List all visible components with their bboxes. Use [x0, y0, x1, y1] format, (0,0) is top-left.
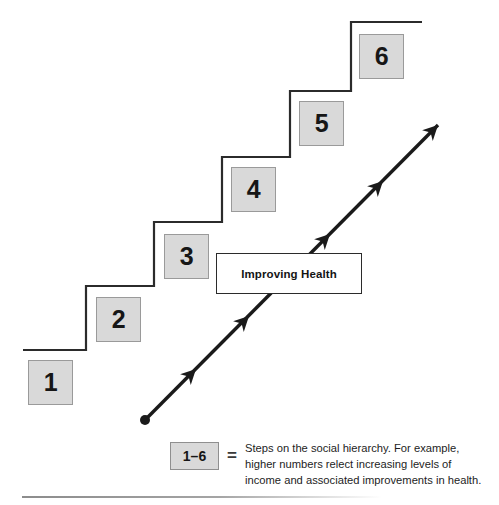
step-box-5: 5	[299, 101, 344, 146]
step-box-4-label: 4	[247, 177, 260, 202]
step-box-3: 3	[164, 234, 209, 279]
staircase-diagram-figure: 1 2 3 4 5 6 Improving Health 1–6 = Steps…	[0, 0, 499, 505]
improving-health-box: Improving Health	[216, 253, 362, 294]
equals-icon: =	[219, 446, 245, 466]
step-box-1: 1	[28, 360, 73, 405]
footer-divider	[22, 496, 382, 498]
step-box-6: 6	[359, 34, 404, 79]
step-box-4: 4	[231, 167, 276, 212]
step-box-6-label: 6	[375, 44, 388, 69]
step-box-3-label: 3	[180, 244, 193, 269]
legend-description: Steps on the social hierarchy. For examp…	[245, 440, 490, 489]
legend-key-swatch: 1–6	[170, 442, 219, 470]
legend-key-label: 1–6	[183, 448, 206, 464]
step-box-2-label: 2	[112, 307, 125, 332]
step-box-1-label: 1	[44, 370, 57, 395]
arrow-start-dot	[140, 415, 150, 425]
legend: 1–6 = Steps on the social hierarchy. For…	[170, 440, 490, 489]
improving-health-label: Improving Health	[241, 268, 337, 280]
step-box-2: 2	[96, 297, 141, 342]
step-box-5-label: 5	[315, 111, 328, 136]
